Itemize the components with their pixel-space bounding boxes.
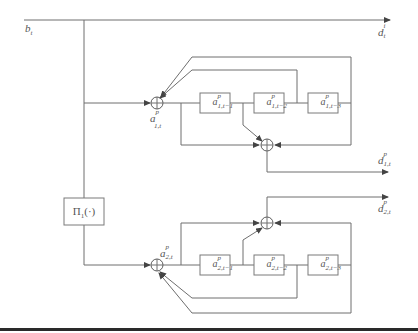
branch1-output-label: dp1,t — [378, 155, 384, 166]
output-2-line — [267, 197, 388, 217]
branch2-output-label: dp2,t — [378, 203, 384, 214]
delay-label-2-3: ap2,t−3 — [308, 258, 338, 269]
input-label: bt — [25, 23, 32, 37]
delay-label-1-1: ap1,t−1 — [200, 96, 230, 107]
delay-label-2-1: ap2,t−1 — [200, 258, 230, 269]
delay-label-2-2: ap2,t−2 — [254, 258, 284, 269]
delay-label-1-2: ap1,t−2 — [254, 96, 284, 107]
direct-output-label: dit — [378, 27, 384, 38]
output-1-line — [267, 151, 388, 172]
sum3-label: ap2,t — [160, 248, 166, 259]
block-diagram — [0, 0, 418, 333]
projection-operator-label: Π1(·) — [64, 205, 104, 220]
delay-label-1-3: ap1,t−3 — [308, 96, 338, 107]
bottom-rule — [0, 328, 418, 331]
sum1-label: ap1,t — [150, 113, 156, 124]
